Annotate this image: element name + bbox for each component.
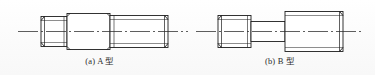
caption-part-a: (a) A 型 [0, 56, 200, 66]
part-b-drawing [196, 12, 362, 52]
figure-page: (a) A 型 (b) B 型 [0, 0, 375, 75]
caption-part-b: (b) B 型 [185, 56, 375, 66]
part-a-drawing [18, 14, 188, 50]
